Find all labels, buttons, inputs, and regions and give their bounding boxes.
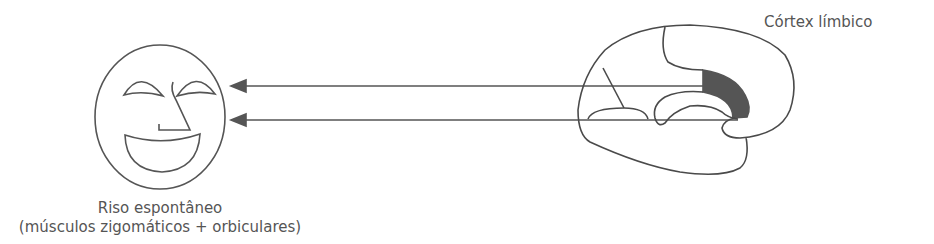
arrows xyxy=(231,80,738,126)
face-caption-line2: (músculos zigomáticos + orbiculares) xyxy=(0,218,320,237)
face-caption-line1: Riso espontâneo xyxy=(0,199,320,218)
brain-outline xyxy=(578,25,794,174)
lower-lobe xyxy=(588,108,648,119)
diagonal-sulcus xyxy=(603,68,624,108)
left-eye xyxy=(124,82,163,96)
cingulate-fold xyxy=(663,27,703,70)
mouth xyxy=(125,134,200,172)
arrow-lower-head xyxy=(231,114,246,126)
smiling-face-icon xyxy=(95,45,225,189)
face-outline xyxy=(95,45,225,189)
brain-region-label: Córtex límbico xyxy=(764,13,872,32)
right-eye xyxy=(177,81,215,96)
nose xyxy=(159,82,190,130)
face-caption: Riso espontâneo (músculos zigomáticos + … xyxy=(0,199,320,237)
arrow-upper-head xyxy=(231,80,246,92)
limbic-highlight xyxy=(703,70,749,118)
brain-icon xyxy=(578,25,794,174)
